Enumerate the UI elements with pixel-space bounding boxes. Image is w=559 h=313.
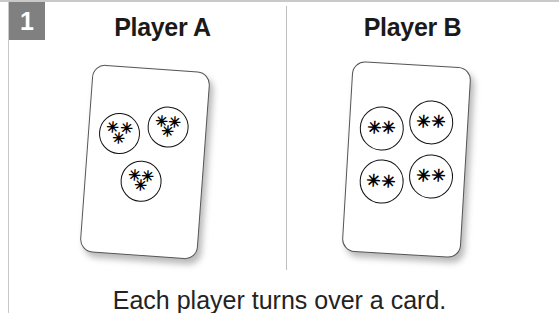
player-a-card: ✳✳ ✳ ✳✳ ✳ ✳✳ ✳ — [79, 64, 210, 260]
pip-row: ✳✳ — [367, 122, 398, 134]
player-b-heading: Player B — [300, 13, 525, 42]
pip-circle: ✳✳ — [408, 153, 455, 200]
step-caption: Each player turns over a card. — [0, 286, 559, 313]
frame-top-rule — [0, 0, 559, 2]
pip-group: ✳✳ — [366, 175, 397, 187]
pip-circle: ✳✳ — [359, 105, 406, 152]
pip-row: ✳ — [161, 127, 175, 137]
step-number-badge: 1 — [9, 2, 45, 40]
pip-circle: ✳✳ — [358, 158, 405, 205]
illustration-frame: 1 Player A ✳✳ ✳ ✳✳ ✳ ✳✳ ✳ Player B — [0, 0, 559, 313]
pip-row: ✳✳ — [366, 175, 397, 187]
pip-row: ✳✳ — [416, 116, 447, 128]
pip-circle: ✳✳ ✳ — [146, 105, 190, 149]
pip-circle: ✳✳ ✳ — [98, 112, 142, 156]
pip-circle: ✳✳ — [408, 99, 455, 146]
pip-group: ✳✳ ✳ — [127, 171, 155, 193]
pip-row: ✳ — [134, 181, 148, 191]
pip-group: ✳✳ ✳ — [105, 123, 133, 145]
panel-divider — [286, 6, 287, 270]
pip-group: ✳✳ — [416, 170, 447, 182]
pip-group: ✳✳ — [367, 122, 398, 134]
pip-circle: ✳✳ ✳ — [119, 159, 163, 203]
pip-group: ✳✳ — [416, 116, 447, 128]
player-a-heading: Player A — [55, 13, 270, 42]
pip-row: ✳ — [112, 134, 126, 144]
frame-left-rule — [8, 0, 9, 313]
pip-group: ✳✳ ✳ — [154, 116, 182, 138]
pip-row: ✳✳ — [416, 170, 447, 182]
player-b-card: ✳✳ ✳✳ ✳✳ ✳✳ — [341, 61, 471, 259]
